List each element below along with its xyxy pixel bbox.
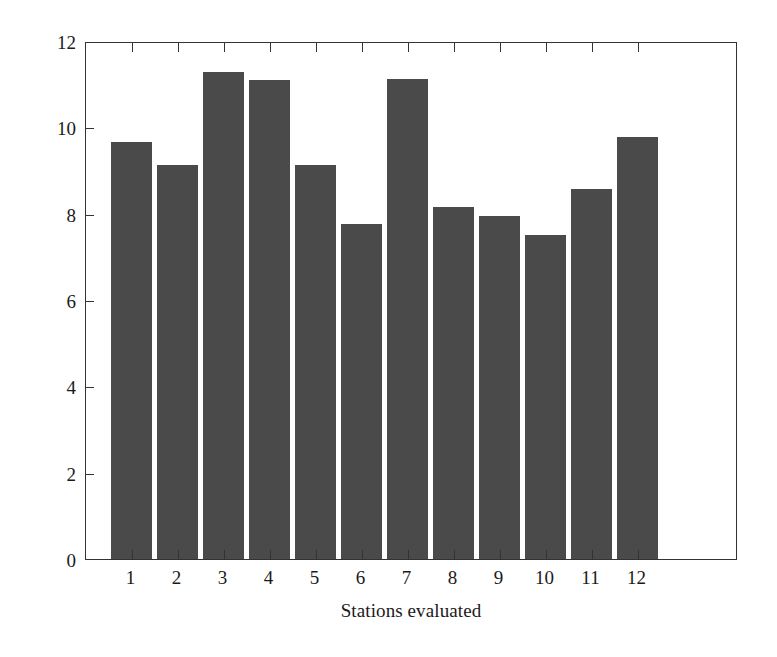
x-tick-mark-top bbox=[638, 43, 639, 52]
x-tick-label: 6 bbox=[356, 568, 366, 587]
y-tick-label: 6 bbox=[67, 292, 77, 311]
plot-area bbox=[85, 42, 737, 560]
y-tick-mark bbox=[85, 301, 94, 302]
y-tick-label: 0 bbox=[67, 551, 77, 570]
x-tick-mark bbox=[270, 550, 271, 559]
x-tick-mark-top bbox=[362, 43, 363, 52]
y-tick-label: 12 bbox=[57, 33, 76, 52]
bar bbox=[111, 142, 152, 559]
bar bbox=[479, 216, 520, 559]
y-tick-mark bbox=[85, 128, 94, 129]
y-tick-label: 4 bbox=[67, 378, 77, 397]
x-tick-label: 10 bbox=[535, 568, 554, 587]
x-tick-mark bbox=[178, 550, 179, 559]
x-tick-mark-top bbox=[500, 43, 501, 52]
bar bbox=[203, 72, 244, 559]
bar bbox=[249, 80, 290, 559]
bar bbox=[433, 207, 474, 559]
x-tick-mark bbox=[500, 550, 501, 559]
bar-chart-figure: Percentage of collisions (%) 024681012 1… bbox=[0, 0, 777, 657]
x-tick-label: 11 bbox=[581, 568, 599, 587]
y-tick-mark bbox=[85, 387, 94, 388]
x-tick-mark bbox=[132, 550, 133, 559]
x-tick-label: 2 bbox=[172, 568, 182, 587]
x-tick-mark-top bbox=[592, 43, 593, 52]
bar bbox=[571, 189, 612, 559]
x-tick-mark-top bbox=[546, 43, 547, 52]
x-tick-mark bbox=[454, 550, 455, 559]
x-tick-mark bbox=[362, 550, 363, 559]
x-tick-label: 12 bbox=[627, 568, 646, 587]
x-tick-mark-top bbox=[454, 43, 455, 52]
bar bbox=[387, 79, 428, 559]
bar bbox=[341, 224, 382, 559]
bar bbox=[295, 165, 336, 559]
x-tick-label: 1 bbox=[126, 568, 136, 587]
x-tick-mark bbox=[316, 550, 317, 559]
x-tick-label: 5 bbox=[310, 568, 320, 587]
x-axis-label: Stations evaluated bbox=[85, 600, 737, 622]
x-tick-mark bbox=[224, 550, 225, 559]
x-tick-mark bbox=[638, 550, 639, 559]
x-tick-mark-top bbox=[132, 43, 133, 52]
x-tick-mark-top bbox=[178, 43, 179, 52]
y-tick-label: 8 bbox=[67, 205, 77, 224]
x-tick-label: 9 bbox=[494, 568, 504, 587]
x-tick-label: 8 bbox=[448, 568, 458, 587]
y-tick-mark bbox=[85, 215, 94, 216]
x-tick-label: 4 bbox=[264, 568, 274, 587]
y-tick-mark bbox=[85, 474, 94, 475]
plot-inner bbox=[86, 43, 736, 559]
y-tick-label: 10 bbox=[57, 119, 76, 138]
x-tick-mark-top bbox=[270, 43, 271, 52]
y-tick-label: 2 bbox=[67, 464, 77, 483]
x-tick-mark bbox=[408, 550, 409, 559]
x-tick-label: 7 bbox=[402, 568, 412, 587]
bar bbox=[617, 137, 658, 559]
x-tick-mark bbox=[592, 550, 593, 559]
x-tick-label: 3 bbox=[218, 568, 228, 587]
x-tick-mark bbox=[546, 550, 547, 559]
bar bbox=[157, 165, 198, 559]
x-tick-mark-top bbox=[316, 43, 317, 52]
x-tick-mark-top bbox=[224, 43, 225, 52]
bar bbox=[525, 235, 566, 559]
x-tick-mark-top bbox=[408, 43, 409, 52]
